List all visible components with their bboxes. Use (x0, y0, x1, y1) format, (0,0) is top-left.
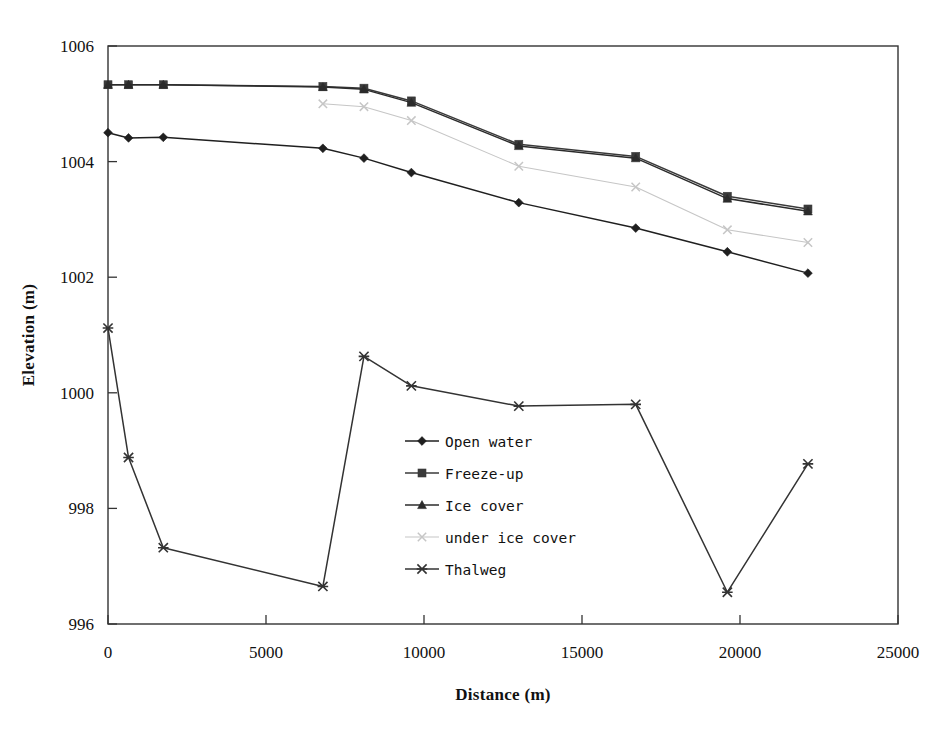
data-point-diamond (318, 144, 327, 153)
x-tick-label: 20000 (719, 643, 762, 662)
x-tick-label: 0 (104, 643, 113, 662)
data-point-asterisk (803, 459, 814, 468)
y-tick-label: 1004 (60, 153, 95, 172)
series-ice-cover (104, 80, 813, 215)
data-point-diamond (360, 154, 369, 163)
x-tick-label: 10000 (403, 643, 446, 662)
series-thalweg (103, 323, 814, 596)
data-point-square (418, 469, 426, 477)
data-point-asterisk (406, 381, 417, 390)
series-polyline (108, 328, 808, 592)
x-tick-label: 25000 (877, 643, 920, 662)
legend-label: Freeze-up (445, 466, 524, 482)
data-point-asterisk (722, 588, 733, 597)
chart-figure: 9969981000100210041006 05000100001500020… (0, 0, 950, 743)
data-series-layer (103, 80, 814, 596)
legend-item-freeze-up[interactable]: Freeze-up (405, 466, 524, 482)
data-point-diamond (514, 198, 523, 207)
data-point-diamond (723, 247, 732, 256)
series-open-water (104, 128, 813, 277)
data-point-asterisk (514, 401, 525, 410)
data-point-asterisk (630, 400, 641, 409)
legend-item-ice-cover[interactable]: Ice cover (405, 498, 524, 514)
data-point-asterisk (158, 543, 169, 552)
data-point-diamond (804, 269, 813, 278)
elevation-distance-line-chart: 9969981000100210041006 05000100001500020… (0, 0, 950, 743)
y-axis-title: Elevation (m) (19, 284, 38, 387)
series-freeze-up (104, 81, 812, 213)
x-axis-ticks (108, 615, 898, 624)
legend-label: under ice cover (445, 530, 576, 546)
data-point-diamond (159, 133, 168, 142)
series-polyline (323, 104, 808, 243)
x-axis-title: Distance (m) (455, 685, 551, 704)
data-point-diamond (407, 168, 416, 177)
series-polyline (108, 85, 808, 209)
legend-item-under-ice-cover[interactable]: under ice cover (405, 530, 576, 546)
legend-item-thalweg[interactable]: Thalweg (405, 562, 506, 578)
legend-label: Open water (445, 434, 533, 450)
chart-legend: Open waterFreeze-upIce coverunder ice co… (405, 434, 576, 578)
x-tick-label: 5000 (249, 643, 283, 662)
series-polyline (108, 133, 808, 273)
y-tick-label: 1000 (60, 384, 94, 403)
x-axis-tick-labels: 0500010000150002000025000 (104, 643, 920, 662)
y-tick-label: 998 (69, 499, 95, 518)
data-point-diamond (104, 128, 113, 137)
data-point-diamond (418, 437, 427, 446)
legend-label: Ice cover (445, 498, 524, 514)
data-point-diamond (631, 224, 640, 233)
y-axis-tick-labels: 9969981000100210041006 (60, 37, 95, 634)
y-tick-label: 1006 (60, 37, 94, 56)
y-tick-label: 1002 (60, 268, 94, 287)
legend-item-open-water[interactable]: Open water (405, 434, 533, 450)
series-under-ice-cover (319, 100, 812, 247)
legend-label: Thalweg (445, 562, 506, 578)
x-tick-label: 15000 (561, 643, 604, 662)
data-point-asterisk (417, 564, 428, 573)
y-tick-label: 996 (69, 615, 95, 634)
data-point-x (407, 116, 415, 124)
series-polyline (108, 85, 808, 212)
data-point-diamond (124, 134, 133, 143)
